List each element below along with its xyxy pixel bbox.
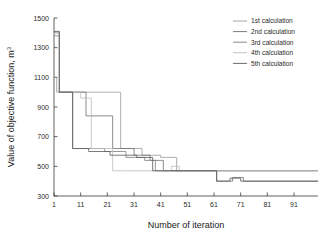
legend-label-2: 2nd calculation [251, 28, 295, 35]
series-line-1 [54, 77, 318, 170]
x-axis-ticks: 1112131415161718191 [52, 193, 298, 209]
y-axis-title: Value of objective function, m3 [6, 46, 16, 167]
y-tick-label: 300 [37, 193, 49, 200]
legend-label-3: 3rd calculation [251, 39, 294, 46]
line-chart: 3005007009001100130015001112131415161718… [0, 0, 329, 237]
x-tick-label: 41 [157, 201, 165, 208]
y-tick-label: 900 [37, 104, 49, 111]
y-tick-label: 1500 [33, 15, 49, 22]
x-tick-label: 81 [263, 201, 271, 208]
x-axis-title: Number of iteration [148, 220, 225, 230]
x-tick-label: 51 [183, 201, 191, 208]
x-tick-label: 21 [103, 201, 111, 208]
y-tick-label: 1100 [34, 74, 49, 81]
y-tick-label: 700 [37, 133, 49, 140]
legend-label-4: 4th calculation [251, 49, 293, 56]
legend-label-1: 1st calculation [251, 17, 293, 24]
legend-label-5: 5th calculation [251, 60, 293, 67]
x-tick-label: 71 [237, 201, 245, 208]
x-tick-label: 11 [77, 201, 84, 208]
y-tick-label: 1300 [33, 44, 49, 51]
x-tick-label: 91 [290, 201, 298, 208]
x-tick-label: 1 [52, 201, 56, 208]
svg-text:Value of objective function, m: Value of objective function, m3 [6, 46, 16, 167]
y-tick-label: 500 [37, 163, 49, 170]
legend: 1st calculation2nd calculation3rd calcul… [233, 17, 295, 66]
x-tick-label: 61 [210, 201, 218, 208]
x-tick-label: 31 [130, 201, 138, 208]
chart-figure: 3005007009001100130015001112131415161718… [0, 0, 329, 237]
